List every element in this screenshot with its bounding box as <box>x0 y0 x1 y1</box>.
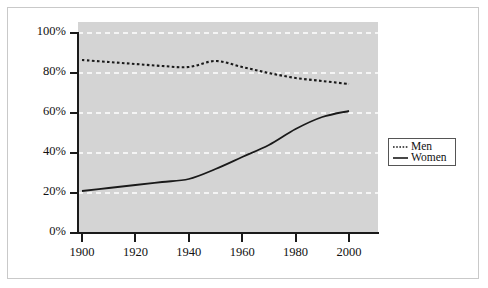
dotted-line-icon <box>392 143 409 151</box>
y-axis-tick-label: 60% <box>0 105 66 118</box>
x-axis-line <box>77 232 379 234</box>
solid-line-icon <box>392 154 409 162</box>
x-axis-tick <box>81 234 83 242</box>
y-axis-line <box>77 32 79 234</box>
x-axis-tick <box>134 234 136 242</box>
y-axis-tick <box>70 152 77 154</box>
x-axis-tick <box>295 234 297 242</box>
x-axis-tick-label: 1940 <box>167 246 211 259</box>
x-axis-tick-label: 1960 <box>220 246 264 259</box>
y-axis-tick-label: 20% <box>0 185 66 198</box>
y-axis-tick-label-holder: 100% <box>0 25 66 38</box>
legend-label-women: Women <box>411 152 446 163</box>
x-axis-tick-label: 1900 <box>60 246 104 259</box>
chart-legend: Men Women <box>388 138 456 166</box>
plot-area <box>78 22 378 233</box>
y-axis-tick-label: 40% <box>0 145 66 158</box>
series-line-men <box>82 60 349 84</box>
x-axis-tick-label: 1980 <box>274 246 318 259</box>
legend-item-women: Women <box>392 152 452 163</box>
y-axis-tick <box>70 192 77 194</box>
y-axis-tick-label-holder: 80% <box>0 65 66 78</box>
y-axis-tick <box>70 232 77 234</box>
y-axis-tick-label: 100% <box>0 25 66 38</box>
y-axis-tick-label-holder: 40% <box>0 145 66 158</box>
y-axis-tick <box>70 72 77 74</box>
series-line-women <box>82 111 349 191</box>
x-axis-tick-label: 2000 <box>327 246 371 259</box>
y-axis-tick-label-holder: 60% <box>0 105 66 118</box>
plot-svg <box>78 22 378 233</box>
y-axis-tick-label-holder: 0% <box>0 225 66 238</box>
y-axis-tick <box>70 32 77 34</box>
y-axis-tick-label: 80% <box>0 65 66 78</box>
chart-figure: 0%20%40%60%80%100% 190019201940196019802… <box>0 0 488 288</box>
x-axis-tick <box>188 234 190 242</box>
x-axis-tick <box>241 234 243 242</box>
x-axis-tick <box>348 234 350 242</box>
y-axis-tick <box>70 112 77 114</box>
y-axis-tick-label-holder: 20% <box>0 185 66 198</box>
y-axis-tick-label: 0% <box>0 225 66 238</box>
x-axis-tick-label: 1920 <box>113 246 157 259</box>
gridlines <box>78 33 378 193</box>
data-series-group <box>82 60 349 191</box>
